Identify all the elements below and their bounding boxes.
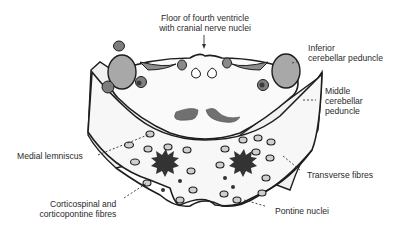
label-floor-fourth-ventricle: Floor of fourth ventricle with cranial n… [150,13,260,33]
label-line: Corticospinal and [38,199,116,209]
label-line: Medial lemniscus [17,151,83,161]
label-line: Middle [325,86,363,96]
label-line: Transverse fibres [307,170,373,180]
label-line: with cranial nerve nuclei [150,23,260,33]
label-middle-cerebellar-peduncle: Middle cerebellar peduncle [325,86,363,116]
label-transverse-fibres: Transverse fibres [307,170,373,180]
label-medial-lemniscus: Medial lemniscus [17,151,83,161]
label-line: corticopontine fibres [38,209,116,219]
label-line: cerebellar [325,96,363,106]
label-pontine-nuclei: Pontine nuclei [275,206,329,216]
label-corticospinal-fibres: Corticospinal and corticopontine fibres [38,199,116,219]
label-line: cerebellar peduncle [308,53,383,63]
label-line: Inferior [308,43,383,53]
label-line: peduncle [325,106,363,116]
label-line: Floor of fourth ventricle [150,13,260,23]
label-line: Pontine nuclei [275,206,329,216]
label-inferior-cerebellar-peduncle: Inferior cerebellar peduncle [308,43,383,63]
